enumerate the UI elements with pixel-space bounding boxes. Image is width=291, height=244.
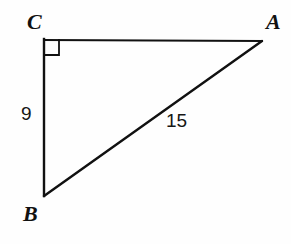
- side-length-label-leg: 9: [21, 104, 32, 123]
- triangle-side-top-leg-CA: [44, 40, 262, 41]
- geometry-figure-canvas: C A B 9 15: [0, 0, 291, 244]
- vertex-label-c: C: [27, 11, 42, 33]
- triangle-side-hypotenuse-BA: [44, 41, 262, 196]
- vertex-label-a: A: [266, 11, 281, 33]
- side-length-label-hypotenuse: 15: [166, 111, 187, 130]
- vertex-label-b: B: [23, 203, 38, 225]
- triangle-drawing: [0, 0, 291, 244]
- right-angle-marker-icon: [44, 40, 59, 55]
